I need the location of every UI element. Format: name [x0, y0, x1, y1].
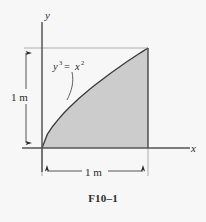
equation-equals-sign: = — [64, 61, 70, 72]
equation-x-exponent: 2 — [81, 59, 84, 66]
curve-equation-label: y 3 = x 2 — [52, 59, 84, 72]
equation-x: x — [74, 61, 80, 72]
figure-caption: F10–1 — [0, 192, 206, 204]
equation-y: y — [52, 61, 58, 72]
y-axis-label: y — [44, 9, 50, 21]
figure-container: y x 1 m 1 m y 3 = x 2 F10–1 — [0, 0, 206, 222]
vertical-dimension-label: 1 m — [11, 91, 28, 103]
shaded-region — [42, 48, 148, 148]
x-axis-label: x — [190, 142, 196, 154]
equation-leader-line — [67, 72, 73, 100]
equation-y-exponent: 3 — [59, 59, 62, 66]
horizontal-dimension-label: 1 m — [85, 166, 102, 178]
figure-drawing: y x 1 m 1 m y 3 = x 2 — [0, 0, 206, 222]
